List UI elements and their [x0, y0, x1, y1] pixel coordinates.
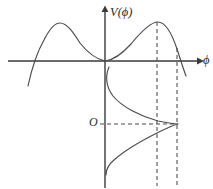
figure-canvas — [0, 0, 213, 188]
origin-level-label: O — [89, 116, 98, 128]
vertical-axis — [102, 6, 109, 189]
sideways-bell-curve — [106, 67, 178, 175]
horizontal-axis-label: ϕ — [203, 54, 209, 67]
potential-figure: V(ϕ) ϕ O — [0, 0, 213, 188]
vertical-axis-label: V(ϕ) — [110, 6, 132, 19]
